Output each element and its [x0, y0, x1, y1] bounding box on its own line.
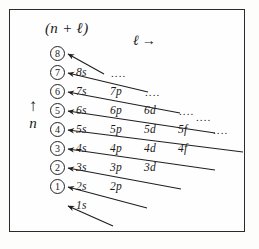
- orbital-label-4f: 4f: [178, 142, 187, 154]
- ellipsis-row-8s: ....: [111, 67, 126, 79]
- ellipsis-row-extra: ....: [196, 111, 211, 123]
- orbital-label-5p: 5p: [110, 123, 122, 135]
- ellipsis-row-6d: ....: [179, 105, 194, 117]
- arrow-diagonal-3: [68, 149, 215, 170]
- n-axis-label: ↑ n: [22, 97, 44, 132]
- orbital-label-6d: 6d: [144, 104, 156, 116]
- l-axis-symbol: ℓ: [133, 33, 139, 48]
- orbital-label-2s: 2s: [76, 180, 87, 192]
- orbital-label-5f: 5f: [178, 123, 187, 135]
- orbital-label-1s: 1s: [76, 199, 87, 211]
- right-arrow-icon: →: [139, 33, 156, 48]
- orbital-label-5d: 5d: [144, 123, 156, 135]
- orbital-label-2p: 2p: [110, 180, 122, 192]
- orbital-label-4d: 4d: [144, 142, 156, 154]
- orbital-label-4p: 4p: [110, 142, 122, 154]
- n-plus-l-header: (n + ℓ): [45, 20, 88, 37]
- circled-number-1: 1: [50, 179, 65, 194]
- circled-number-8: 8: [50, 46, 65, 61]
- circled-number-4: 4: [50, 122, 65, 137]
- arrow-diagonal-0: [68, 206, 113, 226]
- n-axis-symbol: n: [22, 116, 44, 132]
- orbital-label-4s: 4s: [76, 142, 87, 154]
- orbital-label-7p: 7p: [110, 85, 122, 97]
- orbital-label-7s: 7s: [76, 85, 87, 97]
- l-axis-label: ℓ→: [133, 33, 156, 49]
- up-arrow-icon: ↑: [22, 97, 44, 115]
- circled-number-7: 7: [50, 65, 65, 80]
- circled-number-5: 5: [50, 103, 65, 118]
- ellipsis-row-5f: ....: [213, 124, 228, 136]
- orbital-label-3d: 3d: [144, 161, 156, 173]
- orbital-label-5s: 5s: [76, 123, 87, 135]
- circled-number-6: 6: [50, 84, 65, 99]
- orbital-label-8s: 8s: [76, 66, 87, 78]
- circled-number-2: 2: [50, 160, 65, 175]
- orbital-label-3p: 3p: [110, 161, 122, 173]
- orbital-label-6p: 6p: [110, 104, 122, 116]
- orbital-label-3s: 3s: [76, 161, 87, 173]
- ellipsis-row-7p: ....: [145, 86, 160, 98]
- aufbau-diagram-figure: (n + ℓ) ℓ→ ↑ n 8 7 6 5 4 3 2 1 8s 7s 7p …: [0, 0, 259, 249]
- circled-number-3: 3: [50, 141, 65, 156]
- orbital-label-6s: 6s: [76, 104, 87, 116]
